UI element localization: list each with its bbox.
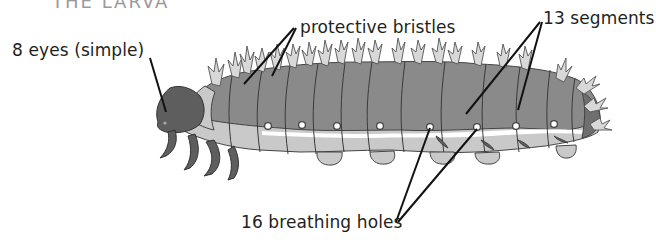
bristles-label: protective bristles	[300, 17, 456, 37]
eye-dot	[163, 121, 166, 124]
breathing-holes-label: 16 breathing holes	[241, 212, 402, 232]
eyes-leader	[150, 58, 166, 112]
segments-label: 13 segments	[543, 8, 655, 28]
caterpillar-diagram: THE LARVA	[0, 0, 656, 243]
eyes-label: 8 eyes (simple)	[12, 40, 144, 60]
head	[157, 86, 204, 132]
